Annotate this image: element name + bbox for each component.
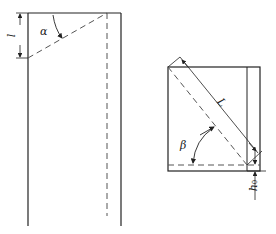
alpha-angle-arc bbox=[53, 15, 62, 38]
label-h0-subscript: 0 bbox=[251, 180, 259, 184]
label-alpha: α bbox=[40, 26, 47, 37]
label-l: l bbox=[6, 34, 17, 38]
L-arrow-top bbox=[182, 60, 188, 67]
L-arrow-bottom bbox=[249, 143, 256, 151]
diagram-canvas: l α L β h0 bbox=[0, 0, 276, 234]
L-extension-top bbox=[168, 57, 180, 67]
beta-arrow-top bbox=[200, 127, 214, 135]
label-beta: β bbox=[180, 140, 186, 151]
label-h0-main: h bbox=[247, 184, 260, 191]
left-figure bbox=[16, 13, 121, 226]
label-h0: h0 bbox=[248, 180, 259, 192]
right-square bbox=[168, 67, 260, 171]
right-figure bbox=[168, 57, 266, 200]
